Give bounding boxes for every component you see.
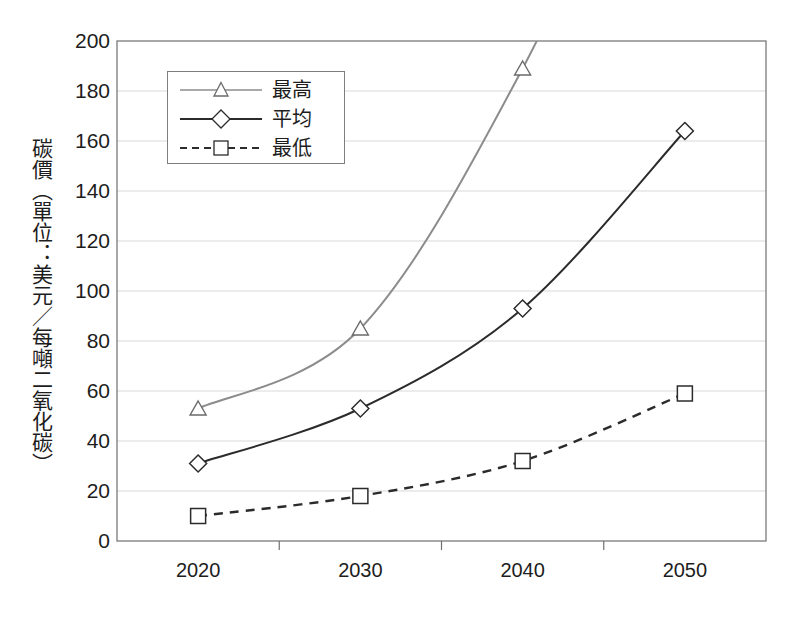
y-tick-label: 100 [54,280,110,301]
x-axis-ticks [279,541,604,550]
legend-item-high: 最高 [168,76,346,104]
legend-sample-triangle-icon [178,78,264,102]
y-tick-label: 80 [54,330,110,351]
data-point-diamond-marker [190,455,207,472]
legend-item-avg: 平均 [168,105,346,133]
data-point-diamond-marker [352,400,369,417]
legend: 最高 平均 最低 [167,71,345,164]
data-point-triangle-marker [515,61,531,75]
y-tick-label: 180 [54,80,110,101]
y-tick-label: 20 [54,480,110,501]
y-tick-label: 200 [54,30,110,51]
data-point-square-marker [191,509,206,524]
x-tick-label: 2020 [176,559,221,582]
y-tick-label: 0 [54,530,110,551]
legend-label-high: 最高 [272,80,312,100]
plot-area [0,0,797,618]
series-line [198,0,685,409]
legend-label-low: 最低 [272,138,312,158]
x-tick-label: 2040 [500,559,545,582]
y-tick-label: 120 [54,230,110,251]
series-diamond [190,123,694,473]
legend-sample-diamond-icon [178,107,264,131]
legend-item-low: 最低 [168,134,346,162]
legend-label-avg: 平均 [272,109,312,129]
data-point-square-marker [677,386,692,401]
data-point-square-marker [353,489,368,504]
y-axis-tick-labels: 020406080100120140160180200 [46,0,110,618]
series-triangle [190,0,685,415]
legend-sample-square-icon [178,136,264,160]
x-tick-label: 2050 [663,559,708,582]
carbon-price-line-chart: 碳價（單位：美元／每噸二氧化碳） 02040608010012014016018… [0,0,797,618]
y-tick-label: 140 [54,180,110,201]
data-point-triangle-marker [190,401,206,415]
y-tick-label: 160 [54,130,110,151]
y-tick-label: 60 [54,380,110,401]
y-tick-label: 40 [54,430,110,451]
series-line [198,131,685,464]
series-line [198,394,685,517]
data-point-square-marker [515,454,530,469]
series-square [191,386,693,524]
x-tick-label: 2030 [338,559,383,582]
